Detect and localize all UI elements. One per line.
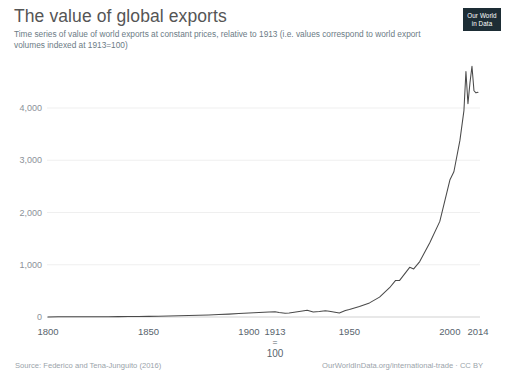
line-chart-svg: 01,0002,0003,0004,000 180018501900191319… <box>0 0 510 373</box>
y-axis-tick-label: 2,000 <box>19 208 42 218</box>
y-axis-tick-label: 4,000 <box>19 103 42 113</box>
chart-container: The value of global exports Time series … <box>0 0 510 373</box>
gridlines <box>47 108 480 317</box>
x-axis-tick-label: 2000 <box>439 326 460 337</box>
source-note: Source: Federico and Tena-Junguito (2016… <box>15 361 161 370</box>
x-axis-tick-label: 1950 <box>339 326 360 337</box>
index-annotation-value: 100 <box>267 348 284 359</box>
y-axis-tick-label: 0 <box>37 312 42 322</box>
y-axis-tick-label: 1,000 <box>19 260 42 270</box>
x-axis-tick-label: 1800 <box>37 326 58 337</box>
x-axis-tick-label: 1900 <box>238 326 259 337</box>
exports-line-series <box>48 66 478 317</box>
index-annotation-equals: = <box>273 337 278 347</box>
y-axis-tick-label: 3,000 <box>19 155 42 165</box>
x-axis-tick-label: 1850 <box>138 326 159 337</box>
y-axis-labels: 01,0002,0003,0004,000 <box>19 103 42 322</box>
plot-area: 01,0002,0003,0004,000 180018501900191319… <box>0 0 510 373</box>
x-axis-tick-label: 1913 <box>264 326 285 337</box>
x-axis-tick-label: 2014 <box>467 326 488 337</box>
x-axis-labels: 1800185019001913195020002014=100 <box>37 326 488 359</box>
attribution-note: OurWorldInData.org/international-trade ·… <box>322 361 483 370</box>
